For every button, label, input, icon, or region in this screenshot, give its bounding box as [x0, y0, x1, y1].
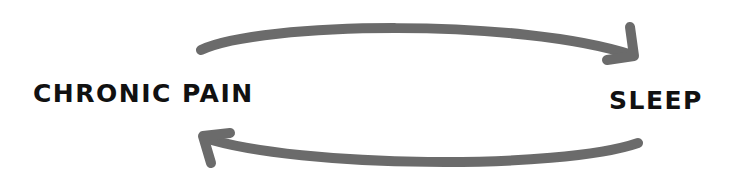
top-arrow-shaft: [201, 28, 632, 55]
node-sleep: SLEEP: [609, 86, 703, 115]
pain-sleep-cycle-diagram: CHRONIC PAIN SLEEP: [0, 0, 736, 183]
top-arrow-pain-to-sleep: [201, 27, 634, 60]
bottom-arrow-shaft: [205, 138, 638, 162]
bottom-arrow-sleep-to-pain: [203, 133, 638, 163]
node-chronic-pain: CHRONIC PAIN: [33, 79, 254, 108]
arrowhead-right-icon: [607, 27, 634, 60]
